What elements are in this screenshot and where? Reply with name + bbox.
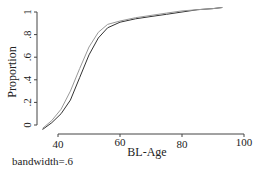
y-axis: 0.2.4.6.81	[21, 9, 37, 128]
plot-area	[43, 8, 223, 130]
x-tick-label: 100	[236, 136, 253, 148]
x-axis-title: BL-Age	[127, 145, 166, 159]
y-tick-label: 0	[21, 122, 33, 128]
series-line-smooth-dark	[43, 8, 223, 130]
series-line-smooth-light	[43, 8, 223, 129]
x-tick-label: 40	[53, 138, 65, 150]
y-tick-label: .6	[21, 53, 33, 62]
x-tick-label: 80	[177, 138, 189, 150]
y-tick-label: .2	[21, 98, 33, 106]
x-tick-label: 60	[115, 136, 127, 148]
y-axis-title: Proportion	[5, 46, 19, 97]
y-tick-label: 1	[21, 9, 33, 15]
bandwidth-annotation: bandwidth=.6	[12, 155, 73, 167]
chart: 0.2.4.6.81 406080100 Proportion BL-Age b…	[0, 0, 261, 172]
y-tick-label: .8	[21, 30, 33, 39]
y-tick-label: .4	[21, 75, 33, 84]
